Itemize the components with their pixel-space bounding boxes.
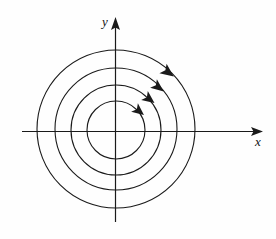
x-axis [22, 127, 263, 136]
flow-arrow-icon-orbit-4 [159, 64, 177, 82]
y-axis-label: y [100, 14, 108, 29]
x-axis-label: x [254, 134, 261, 149]
phase-portrait-figure: y x [0, 0, 276, 239]
flow-arrow-icon-orbit-3 [150, 79, 167, 96]
flow-arrow-icon-orbit-2 [141, 91, 158, 107]
y-axis [111, 17, 120, 222]
phase-portrait-canvas: y x [0, 0, 276, 239]
flow-arrow-icon-orbit-1 [131, 103, 147, 119]
